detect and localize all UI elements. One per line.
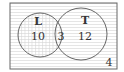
outside-count: 4 (106, 56, 113, 69)
set-l-label: L (34, 15, 42, 28)
venn-diagram: L 10 3 T 12 4 (0, 0, 124, 72)
set-t-only-count: 12 (78, 30, 92, 43)
set-l-only-count: 10 (31, 30, 45, 43)
intersection-count: 3 (58, 30, 65, 43)
set-t-label: T (81, 14, 90, 27)
